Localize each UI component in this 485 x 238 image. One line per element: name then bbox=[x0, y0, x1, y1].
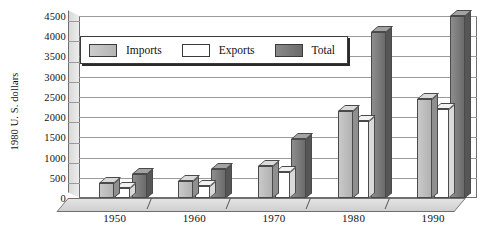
bar-side-face bbox=[386, 27, 392, 198]
bar-front-face bbox=[99, 183, 114, 198]
bar-front-face bbox=[338, 111, 353, 198]
x-axis-separator-2 bbox=[226, 198, 231, 209]
legend-item-total: Total bbox=[275, 44, 335, 57]
y-axis-title: 1980 U. S. dollars bbox=[9, 32, 20, 192]
x-axis-label-1950: 1950 bbox=[85, 212, 145, 224]
bar-chart: 1980 U. S. dollars 050010001500200025003… bbox=[0, 0, 485, 238]
x-axis-label-1970: 1970 bbox=[244, 212, 304, 224]
x-axis: 19501960197019801990 bbox=[68, 198, 477, 238]
chart-legend: ImportsExportsTotal bbox=[80, 36, 348, 64]
legend-label-exports: Exports bbox=[219, 44, 255, 56]
bar-1970-imports bbox=[258, 166, 273, 198]
exports-swatch bbox=[182, 44, 210, 57]
bar-side-face bbox=[290, 167, 296, 198]
total-swatch bbox=[275, 44, 303, 57]
x-axis-separator-4 bbox=[385, 198, 390, 209]
y-axis-tick-3500: 3500 bbox=[22, 51, 66, 62]
y-axis-tick-labels: 050010001500200025003000350040004500 bbox=[22, 0, 66, 238]
bar-side-face bbox=[273, 161, 279, 198]
x-axis-label-1990: 1990 bbox=[403, 212, 463, 224]
legend-label-total: Total bbox=[312, 44, 335, 56]
bar-side-face bbox=[432, 94, 438, 198]
y-axis-tick-3000: 3000 bbox=[22, 71, 66, 82]
y-axis-tick-500: 500 bbox=[22, 172, 66, 183]
y-axis-tick-2500: 2500 bbox=[22, 91, 66, 102]
y-axis-tick-0: 0 bbox=[22, 193, 66, 204]
bar-side-face bbox=[465, 11, 471, 198]
bar-front-face bbox=[417, 99, 432, 198]
y-axis-tick-1500: 1500 bbox=[22, 132, 66, 143]
legend-item-exports: Exports bbox=[182, 44, 255, 57]
bar-side-face bbox=[353, 106, 359, 198]
bar-side-face bbox=[449, 104, 455, 198]
legend-item-imports: Imports bbox=[89, 44, 162, 57]
bar-side-face bbox=[306, 134, 312, 198]
bar-side-face bbox=[226, 164, 232, 198]
bar-front-face bbox=[258, 166, 273, 198]
bar-front-face bbox=[178, 181, 193, 198]
y-axis-tick-2000: 2000 bbox=[22, 112, 66, 123]
bar-1990-imports bbox=[417, 99, 432, 198]
x-axis-separator-3 bbox=[305, 198, 310, 209]
bar-side-face bbox=[147, 169, 153, 198]
x-axis-separator-1 bbox=[146, 198, 151, 209]
legend-label-imports: Imports bbox=[126, 44, 162, 56]
bar-side-face bbox=[369, 116, 375, 198]
x-axis-label-1960: 1960 bbox=[164, 212, 224, 224]
bar-1960-imports bbox=[178, 181, 193, 198]
imports-swatch bbox=[89, 44, 117, 57]
bar-1950-imports bbox=[99, 183, 114, 198]
y-axis-tick-4000: 4000 bbox=[22, 31, 66, 42]
y-axis-tick-1000: 1000 bbox=[22, 152, 66, 163]
y-axis-tick-4500: 4500 bbox=[22, 11, 66, 22]
bar-1980-imports bbox=[338, 111, 353, 198]
x-axis-label-1980: 1980 bbox=[324, 212, 384, 224]
